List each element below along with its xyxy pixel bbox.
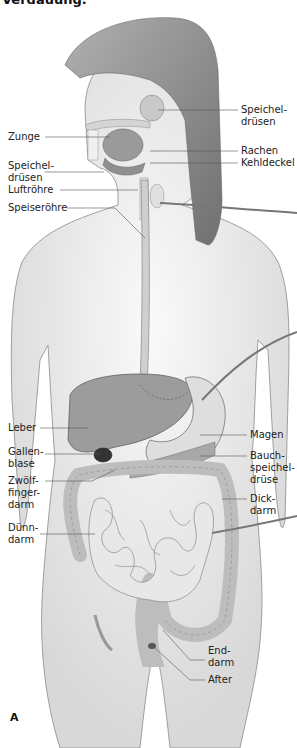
label-rachen: Rachen (241, 145, 278, 157)
teeth (88, 130, 98, 160)
label-after: After (208, 674, 232, 686)
anus (148, 643, 156, 649)
label-speiseroehre: Speiseröhre (8, 202, 67, 214)
label-speicheldruesen-lower: Speichel- drüsen (8, 160, 54, 184)
label-leber: Leber (8, 422, 36, 434)
thyroid (150, 184, 164, 208)
label-dickdarm: Dick- darm (250, 493, 276, 517)
gallbladder (94, 448, 112, 462)
label-zunge: Zunge (8, 131, 40, 143)
panel-letter: A (10, 711, 19, 724)
label-luftroehre: Luftröhre (8, 184, 53, 196)
label-duenndarm: Dünn- darm (8, 522, 38, 546)
label-magen: Magen (250, 429, 284, 441)
label-speicheldruesen-upper: Speichel- drüsen (241, 104, 287, 128)
salivary-gland-upper (140, 95, 164, 121)
tongue (103, 129, 143, 161)
label-bauchspeicheldruese: Bauch- speichel- drüse (250, 450, 295, 486)
label-enddarm: End- darm (208, 645, 234, 669)
label-kehldeckel: Kehldeckel (241, 157, 295, 169)
label-zwoelffingerdarm: Zwölf- finger- darm (8, 475, 40, 511)
label-gallenblase: Gallen- blase (8, 446, 44, 470)
